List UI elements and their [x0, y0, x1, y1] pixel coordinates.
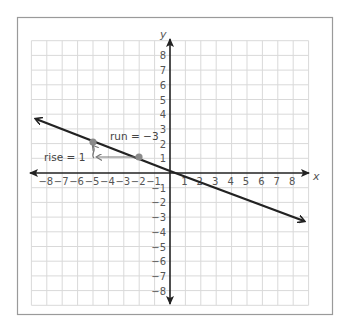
x-tick-label: −6 — [69, 176, 84, 187]
x-tick-label: 5 — [243, 176, 249, 187]
x-tick-label: −3 — [115, 176, 130, 187]
x-tick-label: 3 — [212, 176, 218, 187]
y-tick-label: −3 — [151, 212, 166, 223]
x-tick-label: 8 — [289, 176, 295, 187]
point-neg5-2 — [89, 138, 96, 145]
x-axis-label: x — [312, 170, 320, 183]
x-tick-label: 7 — [274, 176, 280, 187]
y-tick-label: −6 — [151, 256, 166, 267]
x-tick-label: −4 — [100, 176, 115, 187]
y-tick-label: 2 — [160, 139, 166, 150]
y-tick-label: 3 — [160, 124, 166, 135]
x-tick-label: −5 — [85, 176, 100, 187]
coordinate-plane-chart: −8−7−6−5−4−3−2−112345678 87654321−1−2−3−… — [0, 0, 344, 330]
y-tick-label: −4 — [151, 227, 166, 238]
x-tick-label: −7 — [54, 176, 69, 187]
y-tick-label: 4 — [160, 109, 166, 120]
rise-label: rise = 1 — [44, 151, 85, 163]
y-tick-label: 7 — [160, 65, 166, 76]
x-tick-label: −8 — [38, 176, 53, 187]
y-tick-label: 8 — [160, 50, 166, 61]
run-label: run = −3 — [110, 130, 159, 142]
y-tick-label: 6 — [160, 80, 166, 91]
y-tick-label: −7 — [151, 271, 166, 282]
y-tick-label: −5 — [151, 242, 166, 253]
y-tick-label: 1 — [160, 153, 166, 164]
x-tick-label: 6 — [258, 176, 264, 187]
x-tick-label: 4 — [227, 176, 233, 187]
y-axis-label: y — [159, 28, 167, 41]
y-tick-label: 5 — [160, 95, 166, 106]
y-tick-label: −2 — [151, 197, 166, 208]
y-tick-label: −8 — [151, 286, 166, 297]
x-tick-label: −2 — [131, 176, 146, 187]
y-tick-label: −1 — [151, 183, 166, 194]
chart-frame — [18, 18, 333, 315]
point-neg2-1 — [135, 153, 142, 160]
